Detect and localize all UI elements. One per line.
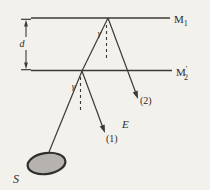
label-m1-base: M <box>174 13 184 25</box>
label-ray-2: (2) <box>140 95 152 107</box>
label-m1-subscript: 1 <box>184 19 188 28</box>
label-gamma-top: γ <box>98 28 102 38</box>
label-gamma-bottom: γ <box>72 81 76 91</box>
label-m2-subscript: 2 <box>184 73 188 82</box>
scanned-figure-page: d γ γ M1 M′2 E (1) (2) S <box>0 0 210 190</box>
label-region-e: E <box>121 118 129 130</box>
label-source-s: S <box>13 172 19 186</box>
mirror-interference-diagram: d γ γ M1 M′2 E (1) (2) S <box>0 0 210 190</box>
label-ray-1: (1) <box>106 133 118 145</box>
